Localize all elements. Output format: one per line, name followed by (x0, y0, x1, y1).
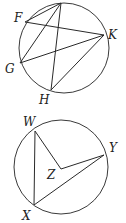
label-y: Y (109, 141, 118, 155)
radius-z-y (61, 155, 104, 169)
label-x: X (21, 209, 31, 223)
chord-top-f (25, 3, 61, 22)
chord-g-k (20, 35, 104, 63)
chord-w-x (34, 131, 35, 205)
label-g: G (5, 62, 15, 76)
figure-1: F K G H (5, 3, 118, 107)
chord-x-y (34, 155, 104, 205)
label-w: W (23, 115, 37, 129)
label-k: K (107, 28, 118, 42)
geometry-diagram: F K G H W Y Z X (0, 0, 126, 223)
circle-2 (14, 120, 108, 214)
chord-f-k (25, 22, 104, 35)
figure-2: W Y Z X (14, 115, 118, 223)
label-z: Z (46, 168, 56, 182)
label-h: H (38, 93, 50, 107)
label-f: F (13, 11, 23, 25)
chord-h-k (51, 35, 104, 90)
radius-w-z (35, 131, 61, 169)
